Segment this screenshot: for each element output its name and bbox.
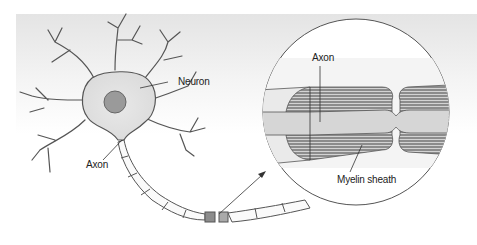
neuron-diagram: Neuron Axon Axon Myelin sheath bbox=[0, 0, 477, 245]
magnified-axon-label: Axon bbox=[312, 52, 334, 63]
magnify-arrow-head bbox=[258, 171, 266, 178]
axon-label: Axon bbox=[86, 159, 108, 170]
diagram-graphic bbox=[0, 0, 477, 245]
myelin-sheath-label: Myelin sheath bbox=[337, 174, 396, 185]
nucleus bbox=[104, 91, 126, 113]
axon-pointer bbox=[103, 140, 122, 160]
neuron-label: Neuron bbox=[178, 76, 210, 87]
magnify-arrow-line bbox=[219, 175, 262, 214]
